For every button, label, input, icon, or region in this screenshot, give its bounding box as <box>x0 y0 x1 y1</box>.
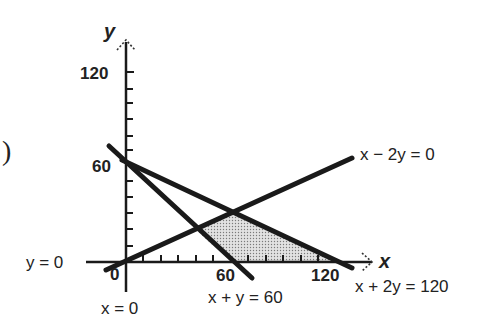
left-marker: ) <box>2 135 11 166</box>
label-x-plus-2y-eq-120: x + 2y = 120 <box>355 277 449 296</box>
label-y-eq-0: y = 0 <box>26 253 63 272</box>
label-x-eq-0: x = 0 <box>101 299 138 318</box>
x-tick-120: 120 <box>311 266 339 285</box>
x-tick-0: 0 <box>110 265 119 284</box>
y-axis-label: y <box>103 20 116 42</box>
y-tick-60: 60 <box>92 157 111 176</box>
x-axis-label: x <box>378 250 391 272</box>
lp-diagram: ) <box>0 0 484 330</box>
x-tick-60: 60 <box>216 266 235 285</box>
label-x-minus-2y-eq-0: x − 2y = 0 <box>360 145 435 164</box>
y-tick-120: 120 <box>80 64 108 83</box>
label-x-plus-y-eq-60: x + y = 60 <box>208 288 283 307</box>
